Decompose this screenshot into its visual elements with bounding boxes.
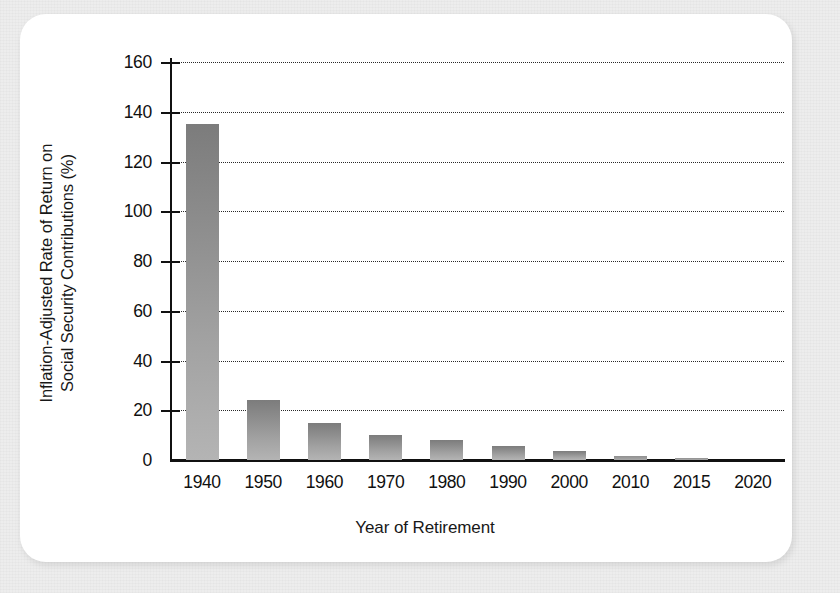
x-axis-tick-label: 2020 bbox=[713, 472, 793, 493]
x-axis-tick-labels: 1940195019601970198019902000201020152020 bbox=[0, 0, 840, 593]
bar-chart: Inflation-Adjusted Rate of Return on Soc… bbox=[0, 0, 840, 593]
x-axis-title: Year of Retirement bbox=[170, 518, 680, 538]
